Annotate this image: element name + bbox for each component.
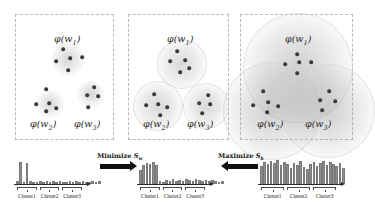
data-point: [66, 68, 70, 72]
bar: [98, 181, 101, 184]
data-point: [47, 101, 51, 105]
x-axis-arrowhead: [210, 182, 214, 186]
x-axis: [14, 184, 88, 185]
x-axis: [258, 184, 342, 185]
data-point: [144, 103, 148, 107]
arrow-shaft: [228, 164, 258, 169]
data-point: [208, 102, 212, 106]
cluster-brace: [261, 187, 284, 190]
cluster-brace: [185, 187, 205, 190]
data-point: [80, 55, 84, 59]
bar: [306, 169, 309, 184]
phi-w1-label: φ(w1): [54, 33, 80, 47]
data-point: [297, 60, 301, 64]
bar: [286, 164, 289, 184]
cluster-axis-label: Cluster2: [41, 193, 59, 199]
histogram-minimized: Cluster1Cluster2Cluster3: [137, 150, 215, 202]
data-point: [156, 102, 160, 106]
bar: [309, 164, 312, 184]
data-point: [200, 111, 204, 115]
arrow-head: [221, 161, 228, 171]
arrow-head: [130, 161, 137, 171]
data-point: [327, 89, 331, 93]
data-point: [187, 66, 191, 70]
cluster-brace: [163, 187, 183, 190]
cluster-brace: [17, 187, 37, 190]
x-axis-arrowhead: [341, 182, 345, 186]
panel-1-content: φ(w1)φ(w2)φ(w3): [16, 15, 113, 139]
bar: [155, 165, 158, 184]
data-point: [85, 93, 89, 97]
data-point: [283, 62, 287, 66]
bar: [313, 162, 316, 184]
histogram-maximized: Cluster1Cluster2Cluster3: [258, 150, 346, 202]
data-point: [183, 58, 187, 62]
data-point: [320, 108, 324, 112]
arrow-label: Minimize Sw: [97, 152, 143, 161]
x-axis: [137, 184, 211, 185]
arrow-minimize-sw: Minimize Sw: [97, 152, 143, 178]
bar: [335, 166, 338, 184]
phi-w2-label: φ(w2): [30, 118, 56, 132]
bar: [267, 164, 270, 184]
cluster-axis-label: Cluster1: [141, 193, 159, 199]
bar: [26, 163, 29, 184]
phi-w1-label: φ(w1): [285, 33, 311, 47]
arrow-shaft: [100, 164, 130, 169]
data-point: [168, 59, 172, 63]
cluster-axis-label: Cluster3: [63, 193, 81, 199]
data-point: [86, 105, 90, 109]
data-point: [44, 109, 48, 113]
data-point: [266, 100, 270, 104]
bar: [276, 160, 279, 184]
data-point: [178, 70, 182, 74]
cluster-halo: [281, 64, 375, 158]
cluster-axis-label: Cluster2: [290, 193, 308, 199]
bar: [91, 181, 94, 184]
bar: [280, 165, 283, 184]
bar-series: [139, 162, 224, 184]
cluster-halo: [77, 80, 105, 108]
data-point: [68, 56, 72, 60]
histogram-initial: Cluster1Cluster2Cluster3: [14, 150, 92, 202]
phi-w3-label: φ(w3): [74, 118, 100, 132]
bar: [152, 162, 155, 184]
bar: [316, 166, 319, 184]
bar: [290, 168, 293, 184]
bar: [95, 182, 98, 184]
cluster-axis-label: Cluster2: [164, 193, 182, 199]
data-point: [318, 98, 322, 102]
data-point: [34, 102, 38, 106]
cluster-brace: [40, 187, 60, 190]
data-point: [333, 99, 337, 103]
arrow-maximize-sb: Maximize Sb: [218, 152, 264, 178]
cluster-brace: [140, 187, 160, 190]
data-point: [206, 93, 210, 97]
data-point: [309, 60, 313, 64]
phi-w3-label: φ(w3): [187, 118, 213, 132]
data-point: [61, 47, 65, 51]
cluster-halo: [243, 13, 353, 123]
panel-2-content: φ(w1)φ(w2)φ(w3): [129, 15, 228, 139]
phi-w1-label: φ(w1): [167, 33, 193, 47]
bar: [326, 165, 329, 184]
cluster-axis-label: Cluster3: [186, 193, 204, 199]
bar: [296, 165, 299, 184]
x-axis-arrowhead: [87, 182, 91, 186]
bar: [273, 163, 276, 184]
bar: [221, 181, 224, 184]
cluster-brace: [313, 187, 336, 190]
bar-series: [16, 162, 101, 184]
arrow-label: Maximize Sb: [218, 152, 264, 161]
cluster-axis-label: Cluster1: [264, 193, 282, 199]
cluster-axis-label: Cluster1: [18, 193, 36, 199]
cluster-brace: [287, 187, 310, 190]
bar: [322, 161, 325, 184]
data-point: [265, 110, 269, 114]
bar: [218, 182, 221, 184]
bar: [319, 163, 322, 184]
bar: [293, 163, 296, 184]
data-point: [44, 87, 48, 91]
cluster-axis-label: Cluster3: [316, 193, 334, 199]
